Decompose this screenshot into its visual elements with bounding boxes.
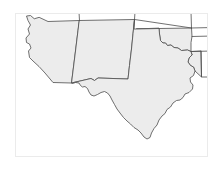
boundary-arkansas-louisiana: [191, 51, 208, 52]
map-figure: Southwestern United States Outline Map: [0, 0, 224, 170]
map-title: Southwestern United States Outline Map: [0, 0, 1, 1]
boundary-northern-state-line: [135, 20, 192, 29]
boundary-kansas-oklahoma-east: [192, 28, 209, 29]
state-arizona[interactable]: [26, 16, 80, 84]
state-new-mexico[interactable]: [72, 20, 135, 84]
boundary-colorado-kansas-vertical: [135, 13, 136, 20]
boundary-louisiana-east: [201, 51, 208, 77]
states-layer: [26, 16, 202, 140]
boundary-utah-colorado-vertical: [79, 13, 80, 21]
map-canvas: [15, 13, 208, 157]
boundary-kansas-missouri-vertical: [191, 13, 192, 28]
map-plot-frame: [15, 13, 208, 157]
boundary-arkansas-oklahoma: [192, 36, 208, 37]
